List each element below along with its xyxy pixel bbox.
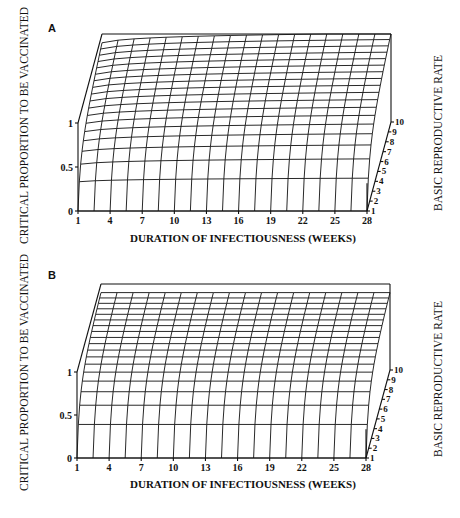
r-tick-label: 1 xyxy=(370,453,375,463)
r-tick-label: 9 xyxy=(391,375,396,385)
x-tick-label: 19 xyxy=(265,462,275,473)
r-tick-label: 7 xyxy=(387,147,392,157)
r-tick-label: 2 xyxy=(373,443,378,453)
y-tick-label: 0 xyxy=(67,453,72,464)
surface-mesh xyxy=(78,34,391,211)
y-tick-label: 0.5 xyxy=(61,162,74,173)
x-tick-label: 1 xyxy=(75,462,80,473)
r-tick-label: 10 xyxy=(395,117,405,127)
y-tick-label: 0.5 xyxy=(60,410,73,421)
x-tick-label: 28 xyxy=(361,462,371,473)
x-tick-label: 16 xyxy=(233,462,243,473)
r-tick-label: 3 xyxy=(376,186,381,196)
r-tick-label: 6 xyxy=(384,157,389,167)
y-tick-label: 1 xyxy=(68,118,73,129)
r-tick-label: 5 xyxy=(382,166,387,176)
surface-plot-b: 1471013161922252800.5112345678910 xyxy=(0,259,460,518)
r-tick-label: 2 xyxy=(374,196,379,206)
surface-mesh xyxy=(77,293,390,458)
surface-plot-a: 1471013161922252800.5112345678910 xyxy=(0,0,460,259)
y-tick-label: 0 xyxy=(68,206,73,217)
x-tick-label: 10 xyxy=(168,462,178,473)
x-tick-label: 13 xyxy=(201,215,211,226)
x-tick-label: 16 xyxy=(234,215,244,226)
r-tick-label: 4 xyxy=(379,176,384,186)
r-tick-label: 8 xyxy=(390,137,395,147)
x-tick-label: 4 xyxy=(108,215,113,226)
y-tick-label: 1 xyxy=(67,367,72,378)
x-tick-label: 1 xyxy=(76,215,81,226)
x-tick-label: 13 xyxy=(200,462,210,473)
x-tick-label: 25 xyxy=(329,462,339,473)
r-tick-label: 3 xyxy=(375,433,380,443)
x-tick-label: 28 xyxy=(362,215,372,226)
r-tick-label: 6 xyxy=(383,404,388,414)
x-tick-label: 22 xyxy=(297,462,307,473)
x-tick-label: 7 xyxy=(140,215,145,226)
x-tick-label: 7 xyxy=(139,462,144,473)
r-tick-label: 1 xyxy=(371,206,376,216)
panel-a: A CRITICAL PROPORTION TO BE VACCINATED B… xyxy=(0,0,460,259)
r-tick-label: 5 xyxy=(381,414,386,424)
r-tick-label: 4 xyxy=(378,424,383,434)
r-tick-label: 7 xyxy=(386,394,391,404)
r-tick-label: 9 xyxy=(392,127,397,137)
x-tick-label: 19 xyxy=(266,215,276,226)
r-tick-label: 8 xyxy=(389,385,394,395)
x-tick-label: 25 xyxy=(330,215,340,226)
x-tick-label: 10 xyxy=(169,215,179,226)
panel-b: B CRITICAL PROPORTION TO BE VACCINATED B… xyxy=(0,259,460,518)
x-tick-label: 22 xyxy=(298,215,308,226)
x-tick-label: 4 xyxy=(107,462,112,473)
r-tick-label: 10 xyxy=(394,365,404,375)
